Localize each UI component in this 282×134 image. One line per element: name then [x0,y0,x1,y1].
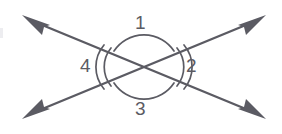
arrowhead-lower-right [238,99,266,119]
arrowhead-upper-left [22,15,50,35]
scan-artifact-left-edge [0,28,3,38]
angle-label-2: 2 [186,56,197,75]
geometry-diagram: lower-right --> upper-right --> [0,0,282,134]
angle-label-4: 4 [80,56,91,75]
arc-angle-3 [114,83,174,99]
angle-label-1: 1 [135,13,146,32]
arrowhead-lower-left [22,99,50,119]
arrowhead-upper-right [238,15,266,35]
arc-angle-4-outer [96,45,104,89]
arc-angle-1 [114,35,174,51]
angle-label-3: 3 [135,99,146,118]
